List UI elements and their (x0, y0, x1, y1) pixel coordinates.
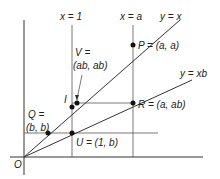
geometry-diagram: x = 1 x = a y = x y = xb P = (a, a) R = … (0, 0, 220, 179)
label-y-eq-x: y = x (159, 11, 182, 22)
label-P: P = (a, a) (138, 40, 179, 51)
label-Q-line2: (b, b) (26, 122, 49, 133)
label-Q-line1: Q = (28, 109, 45, 120)
label-V-line2: (ab, ab) (73, 60, 107, 71)
point-I (70, 105, 75, 110)
point-P (131, 43, 136, 48)
label-U: U = (1, b) (76, 137, 118, 148)
arrow-head-icon (75, 95, 79, 101)
point-V (75, 101, 80, 106)
label-R: R = (a, ab) (138, 99, 186, 110)
label-origin: O (14, 159, 22, 170)
point-R (131, 101, 136, 106)
label-y-eq-xb: y = xb (179, 68, 207, 79)
label-x-eq-1: x = 1 (59, 11, 82, 22)
label-I: I (64, 94, 67, 105)
label-V-line1: V = (75, 47, 90, 58)
point-U (70, 131, 75, 136)
label-x-eq-a: x = a (119, 11, 142, 22)
